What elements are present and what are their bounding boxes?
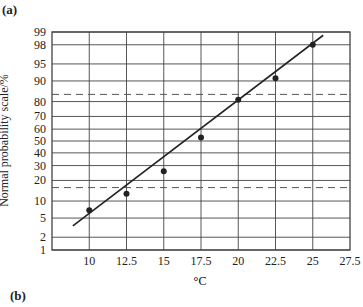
- data-point: [198, 134, 204, 140]
- y-tick-label: 90: [34, 74, 46, 88]
- grid-lines: [52, 32, 350, 250]
- y-tick-label: 10: [34, 194, 46, 208]
- y-tick-label: 1: [40, 243, 46, 257]
- y-tick-label: 98: [34, 38, 46, 52]
- y-tick-label: 80: [34, 95, 46, 109]
- data-point: [235, 97, 241, 103]
- x-tick-labels: 1012.51517.52022.52527.5: [83, 254, 360, 268]
- x-tick-label: 25: [307, 254, 319, 268]
- y-tick-label: 99: [34, 25, 46, 39]
- probability-plot: 125102030405060708090959899 1012.51517.5…: [0, 0, 363, 307]
- y-axis-label: Normal probability scale/%: [0, 74, 12, 207]
- y-tick-label: 5: [40, 211, 46, 225]
- y-tick-label: 70: [34, 109, 46, 123]
- x-tick-label: 17.5: [191, 254, 212, 268]
- data-point: [273, 75, 279, 81]
- data-point: [161, 168, 167, 174]
- x-tick-label: 12.5: [116, 254, 137, 268]
- x-tick-label: 20: [232, 254, 244, 268]
- y-tick-labels: 125102030405060708090959899: [34, 25, 46, 257]
- data-point: [310, 42, 316, 48]
- y-tick-label: 2: [40, 230, 46, 244]
- x-tick-label: 27.5: [340, 254, 361, 268]
- y-tick-label: 30: [34, 159, 46, 173]
- y-tick-label: 60: [34, 122, 46, 136]
- x-axis-label: °C: [194, 274, 207, 288]
- x-tick-label: 15: [158, 254, 170, 268]
- x-tick-label: 10: [83, 254, 95, 268]
- x-tick-label: 22.5: [265, 254, 286, 268]
- y-tick-label: 20: [34, 173, 46, 187]
- y-tick-label: 95: [34, 57, 46, 71]
- data-point: [124, 191, 130, 197]
- data-point: [86, 207, 92, 213]
